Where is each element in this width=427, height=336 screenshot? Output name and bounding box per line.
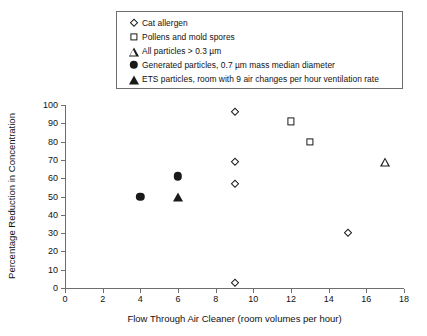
x-tick-label: 18 (399, 294, 409, 304)
legend-item-label: Generated particles, 0.7 µm mass median … (141, 60, 335, 70)
x-tick (253, 289, 254, 293)
x-axis-line (65, 288, 404, 289)
y-tick-label: 0 (53, 283, 58, 293)
legend-item-label: All particles > 0.3 µm (141, 46, 221, 56)
y-tick-label: 80 (48, 137, 58, 147)
filled-circle-icon (136, 192, 144, 200)
x-tick-label: 16 (361, 294, 371, 304)
y-tick-label: 50 (48, 192, 58, 202)
filled-circle-icon (174, 172, 182, 180)
y-tick-label: 90 (48, 118, 58, 128)
x-tick (65, 289, 66, 293)
y-tick-label: 70 (48, 155, 58, 165)
y-tick-label: 30 (48, 228, 58, 238)
open-square-icon (126, 31, 141, 44)
x-tick (329, 289, 330, 293)
y-tick (61, 288, 65, 289)
x-axis-title: Flow Through Air Cleaner (room volumes p… (65, 313, 404, 324)
legend-item-cat-allergen: Cat allergen (117, 16, 402, 30)
open-diamond-icon (230, 157, 239, 166)
x-tick-label: 14 (324, 294, 334, 304)
y-tick-label: 10 (48, 265, 58, 275)
x-tick (291, 289, 292, 293)
x-tick-label: 0 (62, 294, 67, 304)
x-tick-label: 4 (138, 294, 143, 304)
chart-legend: Cat allergen Pollens and mold spores All… (116, 11, 403, 89)
legend-item-label: ETS particles, room with 9 air changes p… (141, 74, 379, 84)
open-square-icon (287, 118, 294, 125)
open-triangle-icon (126, 45, 141, 58)
x-tick-label: 6 (175, 294, 180, 304)
open-diamond-icon (230, 278, 239, 287)
legend-item-pollens-and-mold-spores: Pollens and mold spores (117, 30, 402, 44)
filled-triangle-icon (126, 73, 141, 86)
x-tick (178, 289, 179, 293)
filled-triangle-icon (173, 192, 183, 201)
legend-item-generated-particles: Generated particles, 0.7 µm mass median … (117, 58, 402, 72)
x-tick (404, 289, 405, 293)
y-tick-label: 100 (43, 100, 58, 110)
x-tick (366, 289, 367, 293)
open-diamond-icon (230, 108, 239, 117)
x-tick-label: 8 (213, 294, 218, 304)
legend-item-label: Pollens and mold spores (141, 32, 235, 42)
open-triangle-icon (380, 157, 390, 166)
x-tick (216, 289, 217, 293)
open-diamond-icon (126, 17, 141, 30)
scatter-chart-figure: Cat allergen Pollens and mold spores All… (0, 0, 427, 336)
y-tick-label: 20 (48, 246, 58, 256)
legend-item-ets-particles: ETS particles, room with 9 air changes p… (117, 72, 402, 86)
legend-item-all-particles: All particles > 0.3 µm (117, 44, 402, 58)
x-tick (103, 289, 104, 293)
y-tick-label: 40 (48, 210, 58, 220)
x-tick-label: 12 (286, 294, 296, 304)
open-square-icon (306, 138, 313, 145)
open-diamond-icon (343, 229, 352, 238)
legend-item-label: Cat allergen (141, 18, 188, 28)
open-diamond-icon (230, 179, 239, 188)
x-tick (140, 289, 141, 293)
filled-circle-icon (126, 59, 141, 72)
y-tick-label: 60 (48, 173, 58, 183)
y-axis-title: Percentage Reduction in Concentration (6, 113, 17, 279)
x-tick-label: 2 (100, 294, 105, 304)
plot-area (65, 105, 404, 288)
x-tick-label: 10 (248, 294, 258, 304)
